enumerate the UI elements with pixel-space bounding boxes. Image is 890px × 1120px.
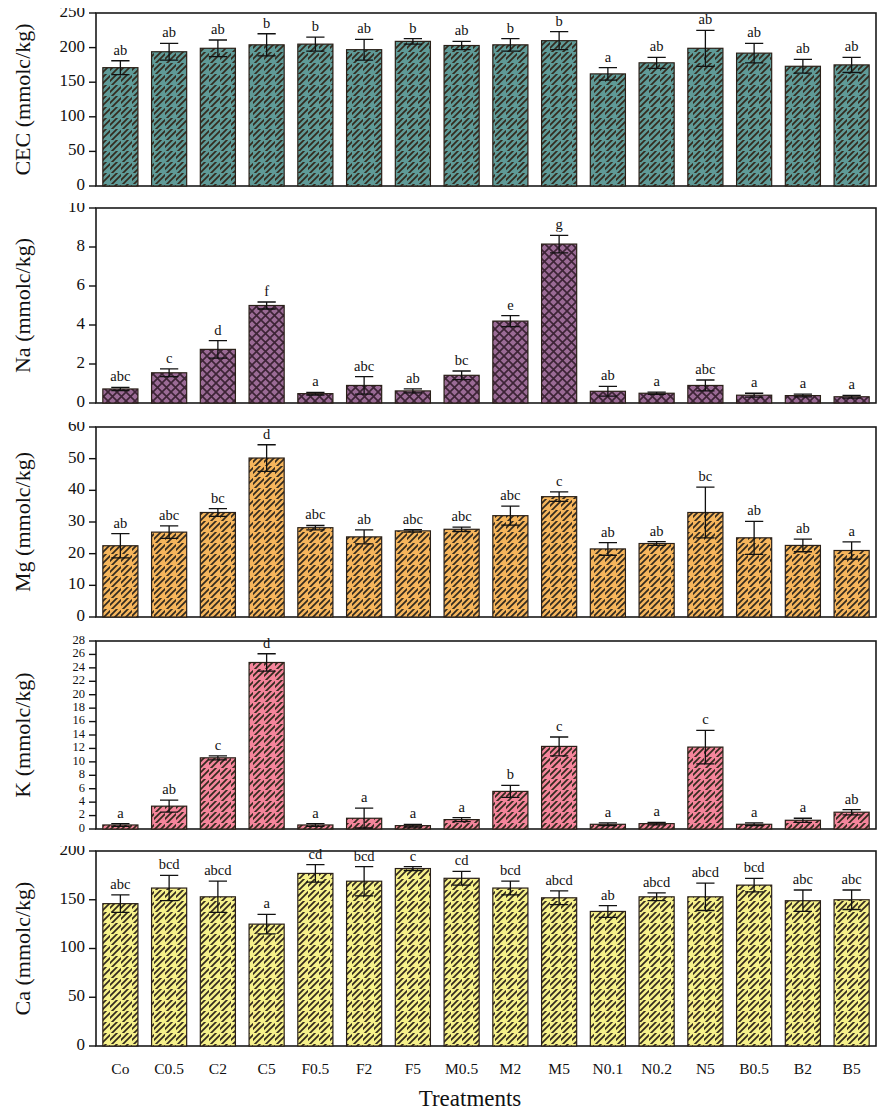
bar-ca-C2 xyxy=(200,897,235,1046)
significance-label-mg-M5: c xyxy=(556,473,562,489)
x-axis-title: Treatments xyxy=(419,1086,522,1111)
significance-label-k-F0.5: a xyxy=(312,805,319,821)
bar-cec-M0.5 xyxy=(444,46,479,186)
bar-mg-N0.1 xyxy=(590,549,625,617)
chart-panel-k: 0246810121416182022242628K (mmolc/kg)aab… xyxy=(0,636,890,841)
bar-cec-F2 xyxy=(347,50,382,186)
chart-panel-mg: 0102030405060Mg (mmolc/kg)ababcbcdabcaba… xyxy=(0,422,890,629)
bar-cec-B2 xyxy=(785,66,820,186)
bar-ca-B5 xyxy=(834,900,869,1046)
significance-label-k-F5: a xyxy=(410,805,417,821)
y-tick-label: 4 xyxy=(77,314,86,333)
chart-panel-na: 0246810Na (mmolc/kg)abccdfaabcabbcegabaa… xyxy=(0,203,890,415)
bar-ca-Co xyxy=(103,904,138,1046)
significance-label-ca-B5: abc xyxy=(842,871,862,887)
y-tick-label: 6 xyxy=(77,275,86,294)
significance-label-k-B5: ab xyxy=(845,791,859,807)
significance-label-ca-N5: abcd xyxy=(692,864,720,880)
x-tick-label-M2: M2 xyxy=(500,1060,522,1077)
y-axis-title-cec: CEC (mmolc/kg) xyxy=(10,23,35,175)
y-tick-label: 0 xyxy=(77,606,86,625)
chart-panel-ca: 050100150200Ca (mmolc/kg)abcbcdabcdacdbc… xyxy=(0,846,890,1058)
significance-label-ca-F0.5: cd xyxy=(309,846,323,862)
significance-label-mg-M0.5: abc xyxy=(452,508,472,524)
y-tick-label: 26 xyxy=(73,646,86,660)
significance-label-k-N0.1: a xyxy=(605,804,612,820)
significance-label-k-C2: c xyxy=(215,737,221,753)
significance-label-na-M2: e xyxy=(507,297,513,313)
x-tick-label-N5: N5 xyxy=(696,1060,715,1077)
significance-label-na-F5: ab xyxy=(406,370,420,386)
bar-mg-F2 xyxy=(347,537,382,617)
significance-label-mg-F0.5: abc xyxy=(305,506,325,522)
y-axis-title-mg: Mg (mmolc/kg) xyxy=(10,452,35,592)
bar-ca-F2 xyxy=(347,881,382,1046)
x-tick-label-F5: F5 xyxy=(405,1060,422,1077)
bar-mg-C0.5 xyxy=(152,532,187,617)
y-tick-label: 60 xyxy=(68,422,85,435)
bar-ca-C0.5 xyxy=(152,888,187,1046)
significance-label-cec-B2: ab xyxy=(796,40,810,56)
significance-label-mg-C5: d xyxy=(263,426,271,442)
bar-na-M2 xyxy=(493,321,528,403)
bar-cec-M2 xyxy=(493,45,528,186)
bar-cec-F0.5 xyxy=(298,44,333,186)
y-tick-label: 30 xyxy=(68,511,85,530)
significance-label-ca-C5: a xyxy=(263,895,270,911)
bar-cec-N5 xyxy=(688,48,723,186)
x-tick-label-M0.5: M0.5 xyxy=(445,1060,478,1077)
significance-label-mg-B0.5: ab xyxy=(747,502,761,518)
bar-na-M5 xyxy=(542,244,577,403)
significance-label-cec-N0.1: a xyxy=(605,49,612,65)
y-tick-label: 20 xyxy=(68,543,85,562)
bar-k-C5 xyxy=(249,662,284,829)
significance-label-ca-M2: bcd xyxy=(500,862,522,878)
y-tick-label: 150 xyxy=(60,71,86,90)
significance-label-k-C0.5: ab xyxy=(162,781,176,797)
y-tick-label: 18 xyxy=(73,700,86,714)
bar-cec-F5 xyxy=(395,41,430,186)
bar-mg-B5 xyxy=(834,551,869,618)
significance-label-ca-F2: bcd xyxy=(354,848,376,864)
significance-label-na-C5: f xyxy=(264,283,269,299)
significance-label-k-M0.5: a xyxy=(458,799,465,815)
x-tick-label-C2: C2 xyxy=(209,1060,227,1077)
x-tick-label-M5: M5 xyxy=(548,1060,570,1077)
significance-label-na-M0.5: bc xyxy=(455,352,469,368)
significance-label-k-B0.5: a xyxy=(751,804,758,820)
x-tick-label-F0.5: F0.5 xyxy=(301,1060,329,1077)
bar-mg-N0.2 xyxy=(639,544,674,617)
significance-label-cec-M5: b xyxy=(556,13,563,29)
y-tick-label: 2 xyxy=(77,353,86,372)
x-tick-label-C5: C5 xyxy=(258,1060,276,1077)
significance-label-cec-B5: ab xyxy=(845,38,859,54)
y-tick-label: 8 xyxy=(79,767,85,781)
bar-mg-M5 xyxy=(542,497,577,617)
bar-mg-C5 xyxy=(249,458,284,617)
y-tick-label: 50 xyxy=(68,448,85,467)
significance-label-na-Co: abc xyxy=(110,368,130,384)
bar-cec-N0.2 xyxy=(639,63,674,186)
y-axis-title-ca: Ca (mmolc/kg) xyxy=(10,882,35,1016)
significance-label-mg-B2: ab xyxy=(796,520,810,536)
significance-label-k-Co: a xyxy=(117,805,124,821)
significance-label-cec-F5: b xyxy=(409,20,416,36)
significance-label-mg-F2: ab xyxy=(357,511,371,527)
significance-label-cec-Co: ab xyxy=(114,42,128,58)
bar-mg-F5 xyxy=(395,531,430,617)
significance-label-ca-C2: abcd xyxy=(204,862,232,878)
y-tick-label: 10 xyxy=(68,574,85,593)
bar-ca-F5 xyxy=(395,869,430,1046)
bar-ca-B2 xyxy=(785,901,820,1046)
significance-label-mg-F5: abc xyxy=(403,511,423,527)
y-tick-label: 10 xyxy=(73,754,86,768)
bar-cec-B5 xyxy=(834,65,869,186)
significance-label-na-C2: d xyxy=(214,322,222,338)
bar-ca-N0.2 xyxy=(639,897,674,1046)
significance-label-cec-N0.2: ab xyxy=(650,38,664,54)
significance-label-na-B5: a xyxy=(848,376,855,392)
bar-mg-C2 xyxy=(200,513,235,618)
bar-ca-B0.5 xyxy=(737,885,772,1046)
y-tick-label: 6 xyxy=(79,781,85,795)
significance-label-cec-F0.5: b xyxy=(312,18,319,34)
